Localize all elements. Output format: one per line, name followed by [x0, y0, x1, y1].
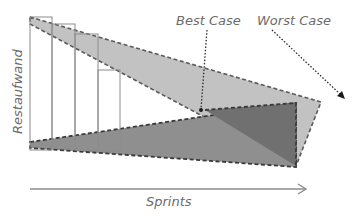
burndown-diagram: Best Case Worst Case Sprints Restaufwand — [0, 0, 357, 221]
y-axis-label: Restaufwand — [10, 48, 25, 134]
best-case-pointer-dot — [199, 108, 203, 112]
best-case-label: Best Case — [176, 13, 241, 28]
sprint-bar-1 — [30, 17, 52, 150]
worst-case-arrowhead-icon — [337, 91, 345, 99]
x-axis-label: Sprints — [146, 194, 192, 209]
worst-case-label: Worst Case — [257, 13, 331, 28]
worst-case-pointer-line — [272, 30, 341, 95]
